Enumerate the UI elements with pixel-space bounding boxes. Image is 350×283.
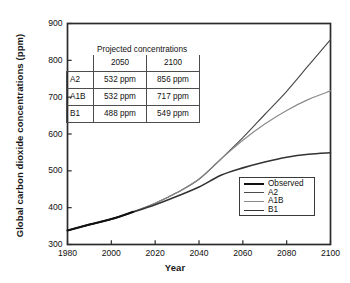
y-axis-title: Global carbon dioxide concentrations (pp… (14, 21, 25, 251)
y-tick-label: 900 (29, 18, 63, 28)
inset-table-column-header: 2050 (94, 55, 147, 72)
series-line-observed (68, 212, 134, 231)
legend-swatch-a2 (244, 192, 264, 193)
inset-table-row: B1488 ppm549 ppm (67, 106, 200, 123)
x-tick-label: 2060 (223, 248, 263, 258)
inset-table-header-row: 20502100 (67, 55, 200, 72)
y-tick-label: 800 (29, 55, 63, 65)
inset-table: 20502100A2532 ppm856 ppmA1B532 ppm717 pp… (66, 55, 200, 123)
projected-concentrations-table: Projected concentrations 20502100A2532 p… (66, 45, 200, 123)
x-tick-label: 2020 (135, 248, 175, 258)
inset-table-cell: 717 ppm (147, 89, 200, 106)
legend-swatch-a1b (244, 201, 264, 202)
inset-table-cell: 532 ppm (94, 89, 147, 106)
co2-projection-figure: Global carbon dioxide concentrations (pp… (0, 0, 350, 283)
inset-table-cell: 488 ppm (94, 106, 147, 123)
x-tick-label: 2080 (267, 248, 307, 258)
y-tick-label: 600 (29, 129, 63, 139)
inset-table-column-header: 2100 (147, 55, 200, 72)
inset-table-title: Projected concentrations (66, 45, 200, 54)
legend-label: B1 (268, 206, 278, 215)
y-tick-label: 500 (29, 165, 63, 175)
legend-entry-observed: Observed (244, 180, 314, 189)
inset-table-row-label: A2 (67, 72, 94, 89)
inset-table-corner-cell (67, 55, 94, 72)
x-tick-label: 1980 (48, 248, 88, 258)
legend-swatch-b1 (244, 210, 264, 211)
inset-table-cell: 856 ppm (147, 72, 200, 89)
inset-table-row-label: B1 (67, 106, 94, 123)
x-tick-label: 2000 (91, 248, 131, 258)
x-tick-label: 2100 (311, 248, 350, 258)
y-tick-label: 700 (29, 92, 63, 102)
inset-table-cell: 549 ppm (147, 106, 200, 123)
inset-table-row-label: A1B (67, 89, 94, 106)
inset-table-cell: 532 ppm (94, 72, 147, 89)
x-tick-label: 2040 (179, 248, 219, 258)
x-axis-title: Year (0, 262, 350, 273)
chart-legend: ObservedA2A1BB1 (239, 177, 315, 216)
inset-table-row: A2532 ppm856 ppm (67, 72, 200, 89)
legend-swatch-observed (244, 183, 264, 185)
legend-entry-b1: B1 (244, 206, 314, 215)
inset-table-row: A1B532 ppm717 ppm (67, 89, 200, 106)
legend-entry-a1b: A1B (244, 197, 314, 206)
y-tick-label: 400 (29, 202, 63, 212)
